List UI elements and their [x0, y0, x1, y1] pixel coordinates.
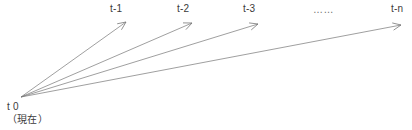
arrow-group: [21, 22, 401, 97]
arrow-shaft: [21, 24, 258, 97]
arrow-shaft: [21, 22, 126, 97]
arrow-label-t-1: t-1: [110, 3, 122, 15]
arrow-label-t-1-text: t-1: [110, 3, 122, 14]
arrow-label-t-n: t-n: [391, 3, 403, 15]
time-horizon-diagram: t-1 t-2 t-3 t-n …… t 0 （現在）: [0, 0, 412, 130]
origin-label-text: t 0: [7, 101, 19, 112]
origin-sublabel-text: （現在）: [7, 113, 48, 126]
arrow-label-t-n-text: t-n: [391, 3, 403, 14]
arrow-canvas: [0, 0, 412, 130]
arrow-label-t-2: t-2: [177, 3, 189, 15]
origin-label: t 0 （現在）: [7, 100, 48, 126]
arrow-label-t-3: t-3: [243, 3, 255, 15]
arrow-shaft: [21, 23, 192, 97]
arrow-label-t-3-text: t-3: [243, 3, 255, 14]
ellipsis-label: ……: [313, 4, 334, 16]
arrow-shaft: [21, 25, 401, 97]
arrow-label-t-2-text: t-2: [177, 3, 189, 14]
